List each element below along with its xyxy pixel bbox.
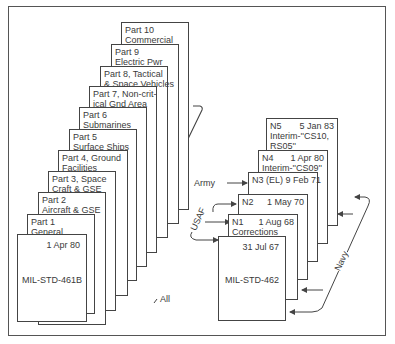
part-title: Part 8, Tactical bbox=[104, 69, 164, 79]
all-label: All bbox=[160, 294, 170, 304]
issue-date: 1 Apr 80 bbox=[46, 240, 80, 250]
mil-std-461b-sheet: 1 Apr 80 MIL-STD-461B bbox=[17, 234, 87, 322]
notice-id: N1 bbox=[232, 217, 244, 227]
notice-desc: Interim-''CS10, bbox=[270, 131, 334, 141]
part-title: Part 10 bbox=[125, 25, 185, 35]
notice-id: N2 bbox=[242, 197, 254, 207]
notice-date: 1 Aug 68 bbox=[258, 217, 294, 227]
notice-date: 1 Apr 80 bbox=[290, 153, 324, 163]
part-title: Part 3, Space bbox=[52, 174, 112, 184]
army-label: Army bbox=[194, 178, 215, 188]
notice-date: 9 Feb 71 bbox=[286, 175, 322, 185]
part-title: Part 9 bbox=[115, 47, 175, 57]
issue-date: 31 Jul 67 bbox=[242, 242, 279, 252]
standard-name: MIL-STD-462 bbox=[219, 275, 285, 285]
part-title: Part 7, Non-crit- bbox=[93, 89, 153, 99]
notice-id: N3 (EL) bbox=[252, 175, 283, 185]
part-title: Part 2 bbox=[42, 195, 102, 205]
part-title: Part 4, Ground bbox=[62, 153, 124, 163]
notice-id: N4 bbox=[262, 153, 274, 163]
notice-date: 1 May 70 bbox=[267, 197, 304, 207]
notice-id: N5 bbox=[270, 121, 282, 131]
part-title: Part 6 bbox=[83, 110, 143, 120]
part-title: Part 5 bbox=[73, 132, 133, 142]
part-title: Part 1 bbox=[31, 217, 91, 227]
notice-date: 5 Jan 83 bbox=[299, 121, 334, 131]
mil-std-462-sheet: 31 Jul 67 MIL-STD-462 bbox=[218, 236, 286, 321]
standard-name: MIL-STD-461B bbox=[18, 275, 86, 285]
